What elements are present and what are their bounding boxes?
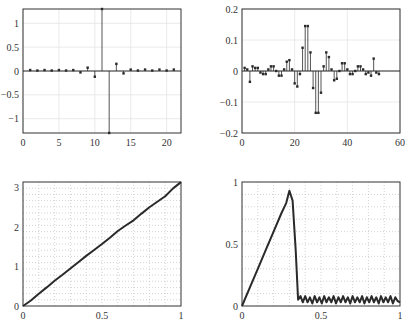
stem-marker [291,68,293,70]
stem-marker [349,73,351,75]
y-tick-label: 0.5 [7,42,20,53]
x-tick-label: 15 [126,137,136,148]
x-tick-label: 0 [240,310,245,321]
stem-marker [341,62,343,64]
stem-marker [315,112,317,114]
x-tick-label: 40 [342,137,352,148]
y-tick-label: −0.5 [1,89,19,100]
stem-marker [312,87,314,89]
stem-marker [309,51,311,53]
stem-marker [144,68,146,70]
stem-marker [293,82,295,84]
stem-marker [375,71,377,73]
y-tick-label: −1 [8,113,19,124]
y-tick-label: 2 [14,222,19,233]
stem-plot-top-right: 0204060−0.2−0.100.10.2 [220,4,405,149]
y-tick-label: 0.2 [226,4,239,15]
x-tick-label: 0 [21,310,26,321]
line-plot-bottom-left: 00.510123 [14,182,184,321]
stem-marker [288,59,290,61]
x-tick-label: 0.5 [96,310,109,321]
y-tick-label: 1 [14,18,19,29]
stem-marker [29,69,31,71]
stem-marker [257,67,259,69]
x-tick-label: 5 [56,137,61,148]
stem-marker [280,74,282,76]
y-tick-label: −0.2 [220,128,238,139]
stem-marker [259,71,261,73]
y-tick-label: 0 [233,301,238,312]
x-tick-label: 0.5 [315,310,328,321]
stem-marker [370,74,372,76]
stem-marker [265,73,267,75]
stem-marker [86,66,88,68]
x-tick-label: 10 [90,137,100,148]
stem-marker [362,68,364,70]
stem-marker [43,69,45,71]
stem-marker [322,65,324,67]
stem-marker [354,70,356,72]
stem-marker [372,57,374,59]
stem-marker [158,68,160,70]
stem-marker [378,73,380,75]
x-tick-label: 20 [290,137,300,148]
stem-marker [344,62,346,64]
stem-marker [275,70,277,72]
y-tick-label: 0.1 [226,35,239,46]
x-tick-label: 20 [162,137,172,148]
stem-marker [249,81,251,83]
y-tick-label: 1 [14,261,19,272]
stem-marker [367,71,369,73]
y-tick-label: 0 [14,301,19,312]
stem-marker [108,132,110,134]
stem-marker [36,69,38,71]
y-tick-label: 0 [14,66,19,77]
stem-marker [296,85,298,87]
stem-marker [301,47,303,49]
stem-marker [165,69,167,71]
stem-marker [246,68,248,70]
stem-marker [94,76,96,78]
stem-marker [151,69,153,71]
stem-marker [286,61,288,63]
stem-marker [72,69,74,71]
stem-marker [351,73,353,75]
stem-marker [79,71,81,73]
x-tick-label: 1 [179,310,184,321]
line-plot-bottom-right: 00.5100.51 [226,177,403,322]
y-tick-label: 3 [14,182,19,193]
x-tick-label: 0 [21,137,26,148]
x-tick-label: 0 [240,137,245,148]
stem-marker [307,25,309,27]
stem-marker [333,79,335,81]
stem-marker [336,78,338,80]
stem-marker [243,67,245,69]
stem-marker [130,68,132,70]
stem-marker [58,69,60,71]
y-tick-label: −0.1 [220,97,238,108]
stem-marker [325,51,327,53]
y-tick-label: 0.5 [226,239,239,250]
stem-marker [173,68,175,70]
stem-marker [122,72,124,74]
figure-4-panel-plots: 05101520−1−0.500.51 0204060−0.2−0.100.10… [0,0,405,326]
y-tick-label: 0 [233,66,238,77]
stem-marker [330,68,332,70]
stem-marker [346,68,348,70]
stem-marker [137,69,139,71]
stem-marker [320,92,322,94]
stem-marker [270,65,272,67]
x-tick-label: 60 [395,137,405,148]
stem-marker [65,69,67,71]
stem-marker [272,65,274,67]
stem-marker [283,68,285,70]
stem-marker [262,73,264,75]
stem-marker [365,73,367,75]
stem-marker [51,69,53,71]
x-tick-label: 1 [398,310,403,321]
stem-marker [357,65,359,67]
stem-marker [101,8,103,10]
stem-plot-top-left: 05101520−1−0.500.51 [1,8,181,148]
stem-marker [338,70,340,72]
stem-marker [254,67,256,69]
